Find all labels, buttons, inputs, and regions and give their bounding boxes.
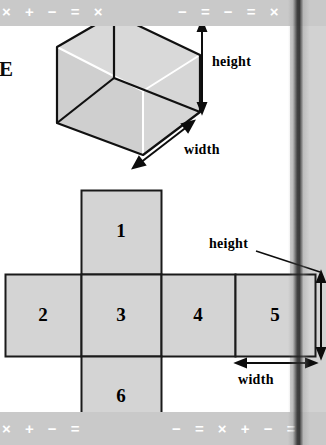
bottom-right-math-symbols: − = × + − = (172, 420, 300, 437)
top-decor-band: × + − = × − = − = × (0, 0, 326, 26)
textbook-page: 1 2 3 4 5 6 height width (0, 0, 326, 445)
bottom-decor-band: × + − = − = × + − = (0, 412, 326, 445)
cube-3d-diagram (0, 0, 326, 445)
cube-height-label: height (212, 54, 251, 70)
cube-width-label: width (184, 142, 220, 158)
top-left-math-symbols: × + − = × (2, 3, 107, 20)
top-right-math-symbols: − = − = × (178, 3, 283, 20)
cut-off-edge-letter: E (0, 57, 13, 82)
bottom-left-math-symbols: × + − = (2, 420, 85, 437)
book-gutter-shadow (288, 0, 310, 445)
